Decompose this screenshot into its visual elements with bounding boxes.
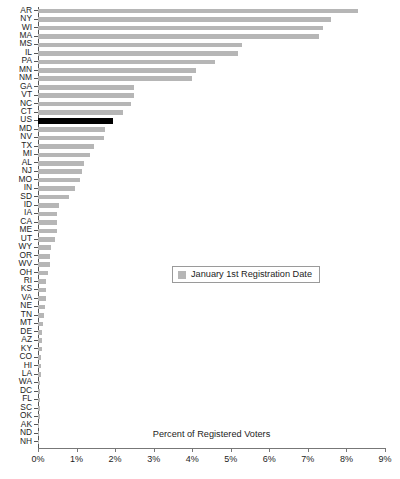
bar bbox=[38, 288, 46, 293]
bar bbox=[38, 85, 134, 90]
bar bbox=[38, 313, 44, 318]
x-axis-tick-label: 0% bbox=[31, 455, 44, 464]
bar bbox=[38, 381, 40, 386]
bar bbox=[38, 178, 80, 183]
bar bbox=[38, 237, 55, 242]
bar bbox=[38, 43, 242, 48]
chart-legend: January 1st Registration Date bbox=[172, 266, 320, 283]
x-axis-tick-label: 6% bbox=[263, 455, 276, 464]
bar bbox=[38, 271, 48, 276]
x-axis-tick bbox=[115, 448, 116, 452]
bar bbox=[38, 330, 42, 335]
x-axis-tick-label: 3% bbox=[147, 455, 160, 464]
bar bbox=[38, 414, 40, 419]
bar bbox=[38, 60, 215, 65]
bar bbox=[38, 220, 57, 225]
bar bbox=[38, 372, 41, 377]
bar bbox=[38, 161, 84, 166]
x-axis-line bbox=[38, 448, 386, 449]
x-axis-tick-label: 5% bbox=[224, 455, 237, 464]
x-axis-tick bbox=[38, 448, 39, 452]
bar bbox=[38, 34, 319, 39]
bar bbox=[38, 17, 331, 22]
bar bbox=[38, 398, 40, 403]
bar bbox=[38, 9, 358, 14]
bar-row: NH bbox=[38, 438, 385, 447]
bar bbox=[38, 26, 323, 31]
bar bbox=[38, 279, 46, 284]
x-axis-tick bbox=[192, 448, 193, 452]
bar bbox=[38, 254, 50, 259]
legend-swatch-icon bbox=[178, 271, 186, 279]
x-axis-tick bbox=[77, 448, 78, 452]
bar bbox=[38, 51, 238, 56]
bar bbox=[38, 102, 131, 107]
x-axis-tick bbox=[346, 448, 347, 452]
bar bbox=[38, 110, 123, 115]
x-axis-tick-label: 9% bbox=[378, 455, 391, 464]
x-axis-tick-label: 1% bbox=[70, 455, 83, 464]
bar bbox=[38, 322, 43, 327]
bar bbox=[38, 68, 196, 73]
x-axis-tick bbox=[269, 448, 270, 452]
bar bbox=[38, 338, 42, 343]
x-axis-tick bbox=[231, 448, 232, 452]
bar bbox=[38, 229, 57, 234]
bar bbox=[38, 144, 94, 149]
plot-area: ARNYWIMAMSILPAMNNMGAVTNCCTUSMDNVTXMIALNJ… bbox=[38, 7, 385, 447]
bar bbox=[38, 93, 134, 98]
bar bbox=[38, 423, 39, 428]
bar-highlighted bbox=[38, 118, 113, 123]
x-axis-tick bbox=[154, 448, 155, 452]
bar-chart: Percent of Registered Voters ARNYWIMAMSI… bbox=[0, 0, 400, 479]
bar bbox=[38, 136, 104, 141]
y-axis-tick-label: NH bbox=[20, 437, 32, 445]
bar bbox=[38, 127, 105, 132]
bar bbox=[38, 76, 192, 81]
bar bbox=[38, 296, 46, 301]
bar bbox=[38, 389, 40, 394]
bar bbox=[38, 186, 75, 191]
x-axis-tick-label: 8% bbox=[340, 455, 353, 464]
bar bbox=[38, 262, 50, 267]
bar bbox=[38, 347, 42, 352]
bar bbox=[38, 212, 57, 217]
x-axis-tick-label: 2% bbox=[109, 455, 122, 464]
x-axis-tick bbox=[385, 448, 386, 452]
bar bbox=[38, 355, 41, 360]
bar bbox=[38, 245, 51, 250]
bar bbox=[38, 406, 40, 411]
x-axis-tick-label: 4% bbox=[186, 455, 199, 464]
bar bbox=[38, 169, 82, 174]
bar bbox=[38, 440, 39, 445]
bar bbox=[38, 305, 45, 310]
legend-label: January 1st Registration Date bbox=[191, 270, 312, 279]
bar bbox=[38, 203, 59, 208]
bar bbox=[38, 364, 41, 369]
bar bbox=[38, 195, 69, 200]
x-axis-tick bbox=[308, 448, 309, 452]
x-axis-tick-label: 7% bbox=[301, 455, 314, 464]
bar bbox=[38, 431, 39, 436]
bar bbox=[38, 153, 90, 158]
